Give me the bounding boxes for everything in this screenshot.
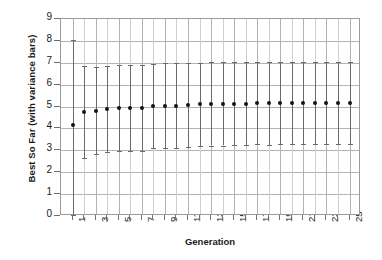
error-bar-cap [209, 62, 214, 63]
x-tick-mark [83, 215, 84, 220]
error-bar-cap [128, 151, 133, 152]
x-tick-mark [199, 215, 200, 220]
data-point [71, 123, 75, 127]
error-bar-cap [221, 146, 226, 147]
error-bar-cap [140, 151, 145, 152]
x-tick-label: 7 [145, 217, 156, 222]
error-bar-cap [82, 66, 87, 67]
error-bar-cap [267, 62, 272, 63]
error-bar-cap [140, 65, 145, 66]
data-point [313, 101, 317, 105]
x-tick-mark [141, 215, 142, 220]
x-tick-mark [302, 215, 303, 220]
error-bar-cap [348, 62, 353, 63]
x-tick-mark [349, 215, 350, 220]
x-tick-mark [175, 215, 176, 220]
error-bar-cap [244, 62, 249, 63]
y-tick-label: 2 [26, 164, 52, 175]
data-point [278, 101, 282, 105]
error-bar-cap [186, 147, 191, 148]
x-tick-mark [325, 215, 326, 220]
error-bar-cap [290, 62, 295, 63]
data-point [117, 106, 121, 110]
error-bar-cap [267, 145, 272, 146]
data-point [174, 104, 178, 108]
y-tick-label: 3 [26, 142, 52, 153]
y-tick-label: 5 [26, 99, 52, 110]
error-bar-cap [301, 62, 306, 63]
y-tick-label: 9 [26, 11, 52, 22]
error-bar-cap [163, 148, 168, 149]
data-point [232, 102, 236, 106]
data-point [336, 101, 340, 105]
error-bar-cap [174, 63, 179, 64]
x-tick-mark [106, 215, 107, 220]
x-tick-label: 3 [99, 217, 110, 222]
x-tick-mark [279, 215, 280, 220]
x-tick-mark [291, 215, 292, 220]
error-bar-cap [71, 215, 76, 216]
error-bar [73, 40, 74, 215]
error-bar-cap [82, 158, 87, 159]
error-bar-cap [324, 144, 329, 145]
error-bar-cap [290, 144, 295, 145]
x-tick-mark [95, 215, 96, 220]
data-point [348, 101, 352, 105]
data-point [255, 101, 259, 105]
x-tick-mark [337, 215, 338, 220]
error-bar-cap [151, 64, 156, 65]
error-bar-cap [278, 144, 283, 145]
x-tick-mark [256, 215, 257, 220]
error-bar-cap [278, 62, 283, 63]
error-bar-cap [117, 151, 122, 152]
x-axis-title: Generation [40, 236, 380, 247]
y-tick-mark [54, 215, 60, 216]
error-bar-cap [163, 63, 168, 64]
error-bar-cap [221, 62, 226, 63]
plot-area [60, 18, 360, 215]
error-bar-cap [128, 65, 133, 66]
data-point [186, 103, 190, 107]
error-bar-cap [198, 63, 203, 64]
data-point [209, 102, 213, 106]
error-bar-cap [94, 67, 99, 68]
data-point [221, 102, 225, 106]
x-tick-mark [187, 215, 188, 220]
data-point [244, 102, 248, 106]
error-bar-cap [336, 144, 341, 145]
x-tick-mark [164, 215, 165, 220]
x-tick-mark [222, 215, 223, 220]
data-point [324, 101, 328, 105]
y-tick-label: 0 [26, 208, 52, 219]
error-bar-cap [313, 144, 318, 145]
y-tick-label: 7 [26, 55, 52, 66]
error-bar-cap [244, 145, 249, 146]
error-bar-cap [301, 144, 306, 145]
y-tick-label: 6 [26, 77, 52, 88]
y-tick-label: 8 [26, 33, 52, 44]
x-tick-label: 5 [122, 217, 133, 222]
error-bar-cap [209, 146, 214, 147]
scatter-chart: Best So Far (with variance bars) Generat… [0, 0, 382, 260]
x-tick-mark [268, 215, 269, 220]
error-bar-cap [255, 144, 260, 145]
error-bar-cap [174, 148, 179, 149]
x-tick-mark [314, 215, 315, 220]
x-tick-label: 1 [76, 217, 87, 222]
data-point [163, 104, 167, 108]
x-tick-mark [210, 215, 211, 220]
x-tick-mark [233, 215, 234, 220]
error-bar-cap [94, 154, 99, 155]
error-bar-cap [336, 62, 341, 63]
data-point [267, 101, 271, 105]
error-bar-cap [232, 62, 237, 63]
data-point [198, 102, 202, 106]
error-bar-cap [105, 152, 110, 153]
data-point [128, 106, 132, 110]
error-bar-cap [105, 66, 110, 67]
y-tick-label: 4 [26, 120, 52, 131]
data-point [94, 109, 98, 113]
data-point [82, 110, 86, 114]
y-tick-label: 1 [26, 186, 52, 197]
data-point [105, 107, 109, 111]
